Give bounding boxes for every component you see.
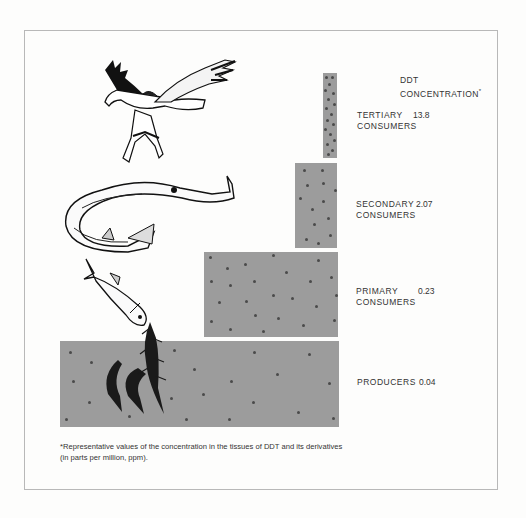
header-line1: DDT [400,75,481,86]
bar-tertiary [323,73,337,158]
label-secondary: SECONDARYCONSUMERS [356,199,416,221]
value-primary: 0.23 [418,286,435,297]
needlefish-icon [62,168,237,263]
bar-secondary [295,163,337,248]
label-tertiary: TERTIARYCONSUMERS [357,110,417,132]
label-producers: PRODUCERS [357,377,416,388]
footnote: *Representative values of the concentrat… [60,441,350,463]
osprey-icon [95,58,245,173]
header-line2: CONCENTRATION* [400,86,481,100]
value-secondary: 2.07 [416,199,433,210]
bar-primary [204,252,338,337]
value-tertiary: 13.8 [413,110,430,121]
algae-icon [98,318,178,418]
label-primary: PRIMARYCONSUMERS [356,286,416,308]
value-producers: 0.04 [419,377,436,388]
column-header: DDT CONCENTRATION* [400,75,481,100]
